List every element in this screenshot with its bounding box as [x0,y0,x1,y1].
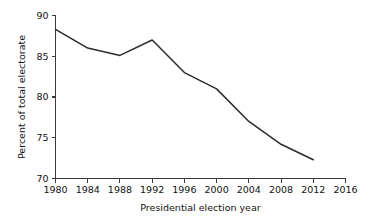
x-axis-title: Presidential election year [140,202,260,213]
x-axis-ticks [56,179,346,183]
x-tick-label: 1988 [108,184,132,195]
y-tick-label: 80 [36,91,48,102]
y-axis-title: Percent of total electorate [16,35,27,159]
x-tick-label: 1980 [43,184,67,195]
line-chart: 7075808590 19801984198819921996200020042… [0,0,374,223]
y-tick-label: 85 [36,51,48,62]
chart-container: 7075808590 19801984198819921996200020042… [0,0,374,223]
y-tick-label: 70 [36,173,48,184]
x-tick-label: 2012 [301,184,325,195]
x-tick-label: 1996 [172,184,196,195]
x-tick-label: 2008 [269,184,293,195]
y-axis-ticks [52,16,56,179]
x-tick-label: 2000 [205,184,229,195]
y-tick-label: 90 [36,10,48,21]
x-tick-label: 2004 [237,184,261,195]
x-tick-label: 1984 [76,184,100,195]
y-tick-label: 75 [36,132,48,143]
y-axis-tick-labels: 7075808590 [36,10,48,184]
x-axis-tick-labels: 1980198419881992199620002004200820122016 [43,184,357,195]
x-tick-label: 1992 [140,184,164,195]
data-series-line [56,29,314,159]
x-tick-label: 2016 [333,184,357,195]
